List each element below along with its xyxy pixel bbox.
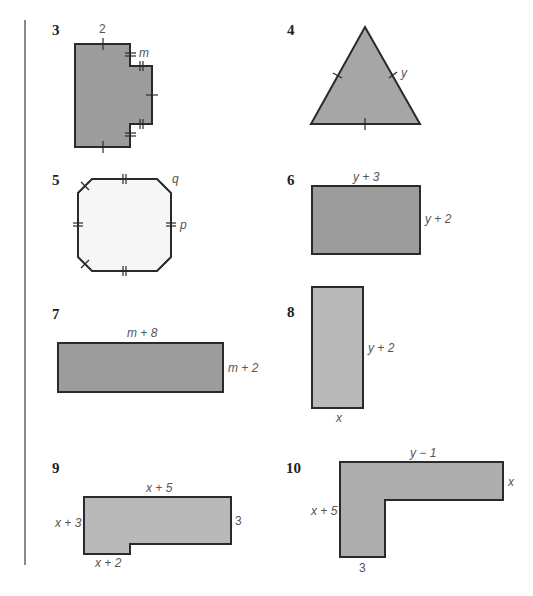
exercise-4-number: 4: [287, 22, 295, 39]
fig6-label-right: y + 2: [425, 212, 451, 226]
fig9-label-left: x + 3: [55, 516, 81, 530]
exercise-8-number: 8: [287, 304, 295, 321]
fig5-label-corner: q: [172, 172, 179, 186]
fig6-label-top: y + 3: [353, 170, 379, 184]
fig10-label-right: x: [508, 475, 514, 489]
figure-9-shape: [84, 497, 231, 554]
figure-10-shape: [340, 462, 503, 557]
fig3-label-notch: m: [139, 46, 149, 60]
exercise-7-number: 7: [52, 306, 60, 323]
exercise-5-number: 5: [52, 172, 60, 189]
fig10-label-left: x + 5: [311, 504, 337, 518]
fig10-label-bottom: 3: [359, 561, 366, 575]
fig5-label-side: p: [180, 218, 187, 232]
exercise-6-number: 6: [287, 172, 295, 189]
fig9-label-top: x + 5: [146, 481, 172, 495]
figures-canvas: [0, 0, 533, 596]
fig10-label-top: y − 1: [410, 446, 436, 460]
fig8-label-right: y + 2: [368, 341, 394, 355]
figure-8-shape: [312, 287, 363, 408]
exercise-9-number: 9: [52, 460, 60, 477]
fig9-label-right: 3: [235, 514, 242, 528]
fig7-label-right: m + 2: [228, 361, 258, 375]
figure-6-shape: [312, 186, 420, 254]
fig8-label-bottom: x: [336, 411, 342, 425]
figure-5-shape: [78, 179, 171, 271]
fig7-label-top: m + 8: [127, 326, 157, 340]
exercise-3-number: 3: [52, 22, 60, 39]
fig9-label-bottom: x + 2: [95, 556, 121, 570]
fig4-label-side: y: [401, 66, 407, 80]
figure-7-shape: [58, 343, 223, 392]
fig3-label-top: 2: [99, 22, 106, 36]
exercise-10-number: 10: [286, 460, 301, 477]
worksheet-page: 3 4 5 6 7 8 9 10 2 m y q p y + 3 y + 2 m…: [0, 0, 533, 596]
